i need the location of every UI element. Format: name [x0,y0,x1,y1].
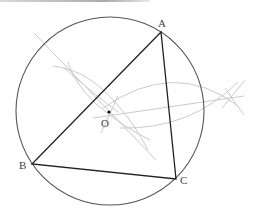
label-b: B [19,159,26,171]
construction-arc-ac-upper [103,82,238,108]
construction-arc-ab-3 [64,68,118,112]
construction-lines [34,33,245,160]
perpendicular-bisector-ab [34,33,156,160]
center-point-o [107,110,110,113]
label-o: O [101,117,109,129]
geometry-diagram: A B C O [0,0,259,217]
construction-stroke-ac-1 [222,80,245,108]
label-a: A [158,17,166,29]
label-c: C [180,174,187,186]
